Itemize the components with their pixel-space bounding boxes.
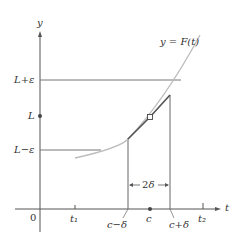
x-axis-arrow-icon [215, 207, 221, 211]
epsilon-delta-limit-diagram: y t 0 y = F(t) L+ε L L−ε t₁ c−δ c c+δ t₂… [0, 0, 241, 249]
x-axis-label: t [225, 203, 229, 213]
y-tick-lower-bound: L−ε [14, 145, 34, 155]
x-tick-t1: t₁ [70, 214, 78, 224]
c-minus-delta-leader [123, 209, 128, 218]
limit-point [38, 114, 42, 118]
x-tick-t2: t₂ [198, 214, 206, 224]
y-axis-label: y [37, 18, 43, 28]
x-tick-c-minus-delta: c−δ [107, 220, 127, 230]
y-tick-limit: L [28, 111, 35, 121]
y-axis-arrow-icon [38, 31, 42, 37]
c-point [148, 207, 152, 211]
y-tick-upper-bound: L+ε [14, 75, 34, 85]
c-plus-delta-leader [170, 209, 174, 218]
excluded-point-marker [148, 115, 153, 120]
curve-label: y = F(t) [160, 37, 199, 47]
interval-width-label: 2δ [142, 180, 154, 190]
diagram-canvas [0, 0, 241, 249]
x-tick-c-plus-delta: c+δ [169, 220, 189, 230]
left-arrow-icon [129, 183, 133, 187]
curve-y-equals-F [75, 35, 200, 158]
origin-label: 0 [30, 213, 36, 223]
right-arrow-icon [165, 183, 169, 187]
x-tick-c: c [146, 214, 152, 224]
